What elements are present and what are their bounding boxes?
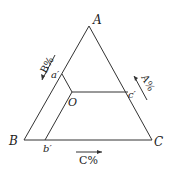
vertex-label-c: C [154, 135, 163, 149]
bottom-axis-label: C% [79, 154, 98, 167]
line-o-to-a-prime [62, 74, 72, 92]
vertex-label-a: A [92, 13, 102, 27]
right-axis-indicator: A% [134, 72, 157, 100]
point-label-b-prime: b′ [43, 143, 52, 154]
point-label-o: O [68, 96, 77, 109]
triangle-outline [24, 26, 152, 140]
bottom-axis-indicator: C% [76, 150, 102, 167]
ternary-diagram: A B C O a′ b′ c′ B% A% C% [0, 0, 171, 173]
point-label-c-prime: c′ [128, 89, 137, 100]
vertex-label-b: B [8, 134, 18, 148]
point-label-a-prime: a′ [51, 69, 60, 80]
